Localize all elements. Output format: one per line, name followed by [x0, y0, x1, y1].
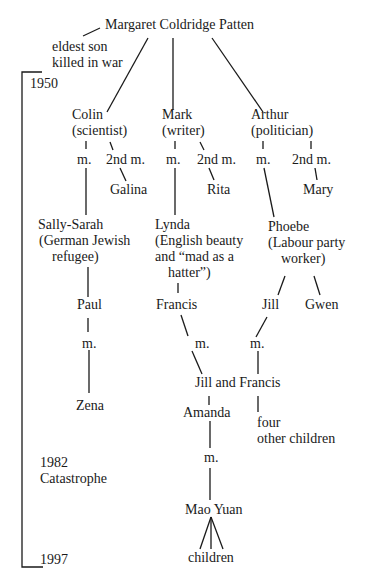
arthur-spouse-line1: Phoebe [268, 219, 309, 235]
other-children-line1: four [257, 415, 280, 431]
mark-spouse-line4: hatter”) [168, 265, 211, 281]
mark-marriage: m. [166, 152, 180, 168]
great-grandchild-zena: Zena [76, 398, 104, 414]
eldest-son-note-line2: killed in war [52, 55, 123, 71]
arthur-second-spouse: Mary [303, 182, 333, 198]
child-colin-name: Colin [72, 107, 103, 123]
arthur-spouse-line2: (Labour party [268, 235, 345, 251]
eldest-son-note-line1: eldest son [52, 39, 108, 55]
timeline-event-year: 1982 [40, 455, 68, 471]
child-mark-name: Mark [162, 107, 192, 123]
arthur-second-marriage: 2nd m. [292, 152, 331, 168]
mao-yuan-children: children [188, 550, 234, 566]
colin-marriage: m. [77, 152, 91, 168]
root-person: Margaret Coldridge Patten [105, 17, 254, 33]
arthur-spouse-line3: worker) [281, 251, 325, 267]
grandchild-jill: Jill [262, 297, 279, 313]
mark-second-marriage: 2nd m. [197, 152, 236, 168]
arthur-marriage: m. [256, 152, 270, 168]
timeline-end: 1997 [40, 552, 68, 568]
colin-spouse-line2: (German Jewish [39, 233, 130, 249]
couple-jill-and-francis: Jill and Francis [195, 375, 281, 391]
grandchild-francis: Francis [156, 297, 197, 313]
other-children-line2: other children [257, 431, 335, 447]
child-arthur-name: Arthur [251, 107, 288, 123]
timeline-start: 1950 [30, 76, 58, 92]
grandchild-paul: Paul [77, 297, 102, 313]
colin-spouse-line3: refugee) [52, 249, 99, 265]
colin-second-marriage: 2nd m. [106, 152, 145, 168]
francis-marriage: m. [195, 336, 209, 352]
mark-spouse-line3: and “mad as a [155, 249, 234, 265]
child-mark-role: (writer) [162, 123, 205, 139]
jill-marriage: m. [250, 336, 264, 352]
timeline-event-label: Catastrophe [40, 471, 107, 487]
colin-second-spouse: Galina [110, 182, 147, 198]
colin-spouse-line1: Sally-Sarah [38, 217, 103, 233]
amanda-marriage: m. [204, 450, 218, 466]
child-colin-role: (scientist) [72, 123, 127, 139]
child-arthur-role: (politician) [251, 123, 313, 139]
mark-spouse-line2: (English beauty [155, 233, 243, 249]
mao-yuan: Mao Yuan [185, 502, 242, 518]
grandchild-gwen: Gwen [305, 297, 338, 313]
mark-spouse-line1: Lynda [155, 217, 190, 233]
mark-second-spouse: Rita [207, 182, 230, 198]
great-grandchild-amanda: Amanda [183, 405, 230, 421]
paul-marriage: m. [82, 336, 96, 352]
timeline-bracket [22, 72, 43, 567]
